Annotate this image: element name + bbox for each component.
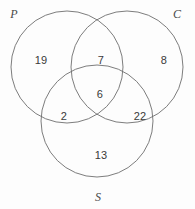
region-count-p-and-s: 2 xyxy=(61,110,67,122)
set-label-c: C xyxy=(173,7,181,22)
venn-diagram-figure: P C S 19 7 8 6 2 22 13 xyxy=(0,0,195,209)
region-count-s-only: 13 xyxy=(95,149,108,161)
venn-circles-group xyxy=(0,0,195,209)
set-label-s: S xyxy=(95,190,101,205)
region-count-c-and-s: 22 xyxy=(134,110,147,122)
region-count-c-only: 8 xyxy=(161,54,167,66)
region-count-p-only: 19 xyxy=(35,54,48,66)
region-count-p-and-c-and-s: 6 xyxy=(97,88,103,100)
circle-set-c xyxy=(71,11,183,123)
region-count-p-and-c: 7 xyxy=(98,54,104,66)
set-label-p: P xyxy=(10,7,17,22)
circle-set-p xyxy=(11,11,123,123)
